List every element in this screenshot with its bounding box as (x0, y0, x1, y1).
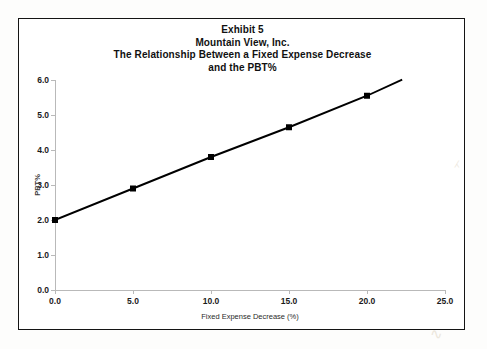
data-point-marker (130, 186, 136, 192)
y-tick-label: 2.0 (37, 215, 49, 225)
x-tick-mark (445, 290, 446, 294)
scanned-page-background: Exhibit 5 Mountain View, Inc. The Relati… (0, 0, 487, 349)
data-point-marker (286, 124, 292, 130)
x-tick-label: 0.0 (49, 296, 61, 306)
y-tick-label: 6.0 (37, 75, 49, 85)
chart-frame: Exhibit 5 Mountain View, Inc. The Relati… (18, 18, 465, 330)
y-tick-label: 5.0 (37, 110, 49, 120)
chart-title-line-4: and the PBT% (19, 62, 466, 75)
y-tick-label: 1.0 (37, 250, 49, 260)
y-tick-label: 0.0 (37, 285, 49, 295)
chart-title-line-3: The Relationship Between a Fixed Expense… (19, 49, 466, 62)
data-point-marker (52, 217, 58, 223)
x-tick-label: 10.0 (203, 296, 220, 306)
x-axis-title: Fixed Expense Decrease (%) (55, 312, 445, 321)
x-tick-label: 25.0 (437, 296, 454, 306)
plot-area: 0.01.02.03.04.05.06.0 0.05.010.015.020.0… (55, 80, 445, 290)
series-line-pbt (55, 80, 401, 220)
x-tick-label: 20.0 (359, 296, 376, 306)
series-markers (52, 93, 370, 223)
data-point-marker (208, 154, 214, 160)
y-axis-title: PBT% (33, 174, 42, 196)
data-point-marker (364, 93, 370, 99)
chart-title-line-2: Mountain View, Inc. (19, 37, 466, 50)
x-tick-label: 15.0 (281, 296, 298, 306)
series-plot (55, 80, 445, 291)
y-tick-label: 4.0 (37, 145, 49, 155)
chart-title-line-1: Exhibit 5 (19, 24, 466, 37)
chart-title: Exhibit 5 Mountain View, Inc. The Relati… (19, 24, 466, 74)
x-tick-label: 5.0 (127, 296, 139, 306)
